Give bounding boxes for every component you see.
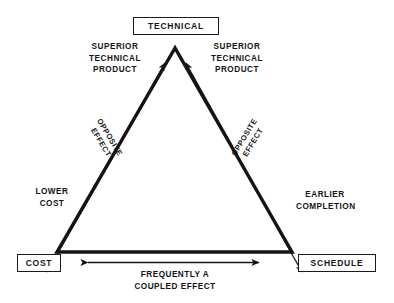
vertex-label-cost: COST: [26, 259, 53, 268]
vertex-label-technical: TECHNICAL: [148, 22, 204, 31]
vertex-box-cost[interactable]: COST: [17, 254, 61, 272]
diagram-canvas-container: TECHNICAL COST SCHEDULE SUPERIOR TECHNIC…: [0, 0, 394, 303]
arrow-down-icon-left: [47, 70, 163, 272]
vertex-box-technical[interactable]: TECHNICAL: [133, 17, 219, 35]
vertex-box-schedule[interactable]: SCHEDULE: [298, 254, 376, 272]
annotation-frequently-a-coupled-effect: FREQUENTLY A COUPLED EFFECT: [120, 269, 230, 292]
annotation-superior-technical-product-right: SUPERIOR TECHNICAL PRODUCT: [210, 41, 264, 76]
annotation-superior-technical-product-left: SUPERIOR TECHNICAL PRODUCT: [88, 41, 142, 76]
triangle-outline: [57, 48, 292, 252]
arrow-down-icon-right: [188, 70, 302, 272]
vertex-label-schedule: SCHEDULE: [311, 259, 364, 268]
annotation-lower-cost: LOWER COST: [30, 186, 74, 209]
triangle-path: [57, 48, 292, 252]
annotation-earlier-completion: EARLIER COMPLETION: [296, 189, 354, 212]
